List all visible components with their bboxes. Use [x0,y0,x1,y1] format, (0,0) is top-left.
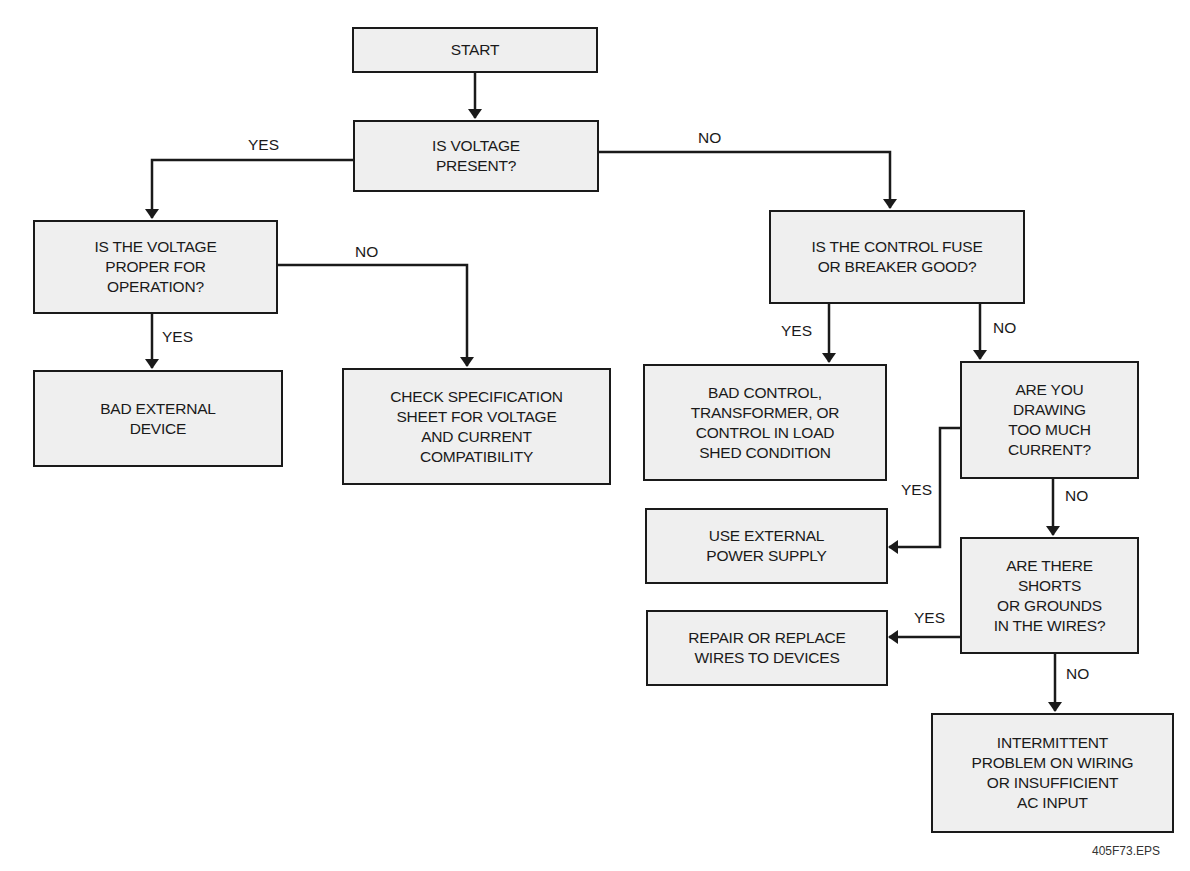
label-no-voltage-present: NO [698,129,721,147]
label-yes-current: YES [901,481,932,499]
node-bad-control: BAD CONTROL, TRANSFORMER, OR CONTROL IN … [643,364,887,481]
flowchart-canvas: START IS VOLTAGE PRESENT? IS THE VOLTAGE… [0,0,1190,871]
node-check-specification: CHECK SPECIFICATION SHEET FOR VOLTAGE AN… [342,368,611,485]
node-bad-external-device: BAD EXTERNAL DEVICE [33,370,283,467]
label-no-shorts: NO [1066,665,1089,683]
label-yes-voltage-proper: YES [162,328,193,346]
label-yes-voltage-present: YES [248,136,279,154]
node-repair-wires: REPAIR OR REPLACE WIRES TO DEVICES [646,610,888,686]
label-no-voltage-proper: NO [355,243,378,261]
node-intermittent-problem: INTERMITTENT PROBLEM ON WIRING OR INSUFF… [931,713,1174,833]
node-voltage-proper: IS THE VOLTAGE PROPER FOR OPERATION? [33,220,278,314]
label-no-current: NO [1065,487,1088,505]
node-voltage-present: IS VOLTAGE PRESENT? [353,120,599,192]
node-too-much-current: ARE YOU DRAWING TOO MUCH CURRENT? [960,361,1139,479]
node-use-external-power: USE EXTERNAL POWER SUPPLY [645,508,888,584]
node-start: START [352,27,598,73]
label-no-fuse: NO [993,319,1016,337]
edge-voltage-present-no [598,152,890,208]
label-yes-shorts: YES [914,609,945,627]
edge-voltage-present-yes [152,160,353,218]
node-shorts-or-grounds: ARE THERE SHORTS OR GROUNDS IN THE WIRES… [960,537,1139,654]
label-yes-fuse: YES [781,322,812,340]
figure-id-footer: 405F73.EPS [1092,844,1160,858]
node-fuse-good: IS THE CONTROL FUSE OR BREAKER GOOD? [769,210,1025,304]
edge-voltage-proper-no [277,265,467,366]
